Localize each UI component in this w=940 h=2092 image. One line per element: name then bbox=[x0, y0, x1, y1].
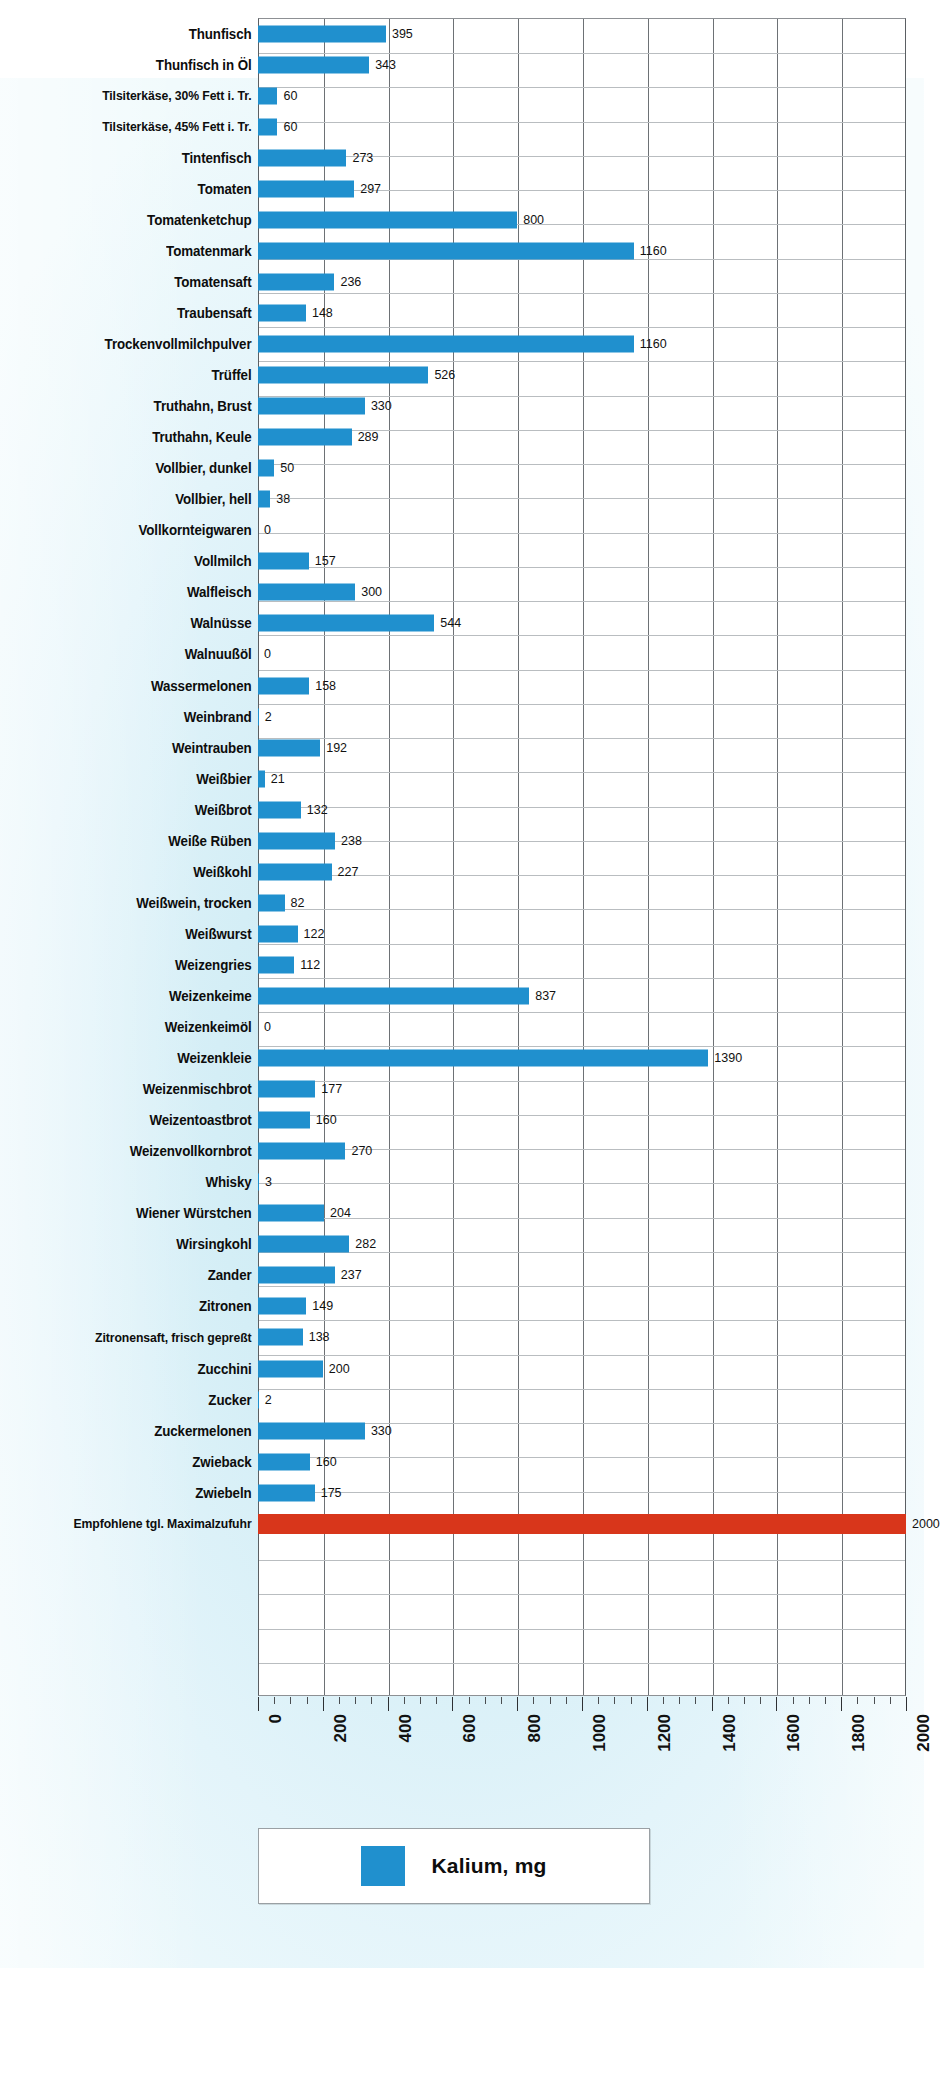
value-label: 158 bbox=[315, 679, 336, 693]
value-label: 160 bbox=[316, 1113, 337, 1127]
major-tick bbox=[323, 1697, 324, 1711]
value-label: 237 bbox=[341, 1268, 362, 1282]
minor-tick bbox=[695, 1697, 696, 1704]
value-label: 175 bbox=[321, 1486, 342, 1500]
x-axis-tick-labels: 0200400600800100012001400160018002000 bbox=[0, 1714, 924, 1804]
minor-tick bbox=[614, 1697, 615, 1704]
bar-row: Vollkornteigwaren0 bbox=[0, 515, 924, 546]
value-bar bbox=[258, 894, 285, 911]
value-label: 236 bbox=[340, 275, 361, 289]
category-label: Wassermelonen bbox=[21, 678, 258, 694]
category-label: Truthahn, Keule bbox=[21, 429, 258, 445]
category-label: Zuckermelonen bbox=[21, 1423, 258, 1439]
bar-track: 2000 bbox=[258, 1508, 924, 1539]
category-label: Vollmilch bbox=[21, 553, 258, 569]
value-label: 227 bbox=[338, 865, 359, 879]
bar-track: 204 bbox=[258, 1198, 924, 1229]
value-label: 200 bbox=[329, 1362, 350, 1376]
value-bar bbox=[258, 1267, 335, 1284]
bar-track: 270 bbox=[258, 1136, 924, 1167]
category-label: Weißbrot bbox=[21, 802, 258, 818]
value-bar bbox=[258, 25, 386, 42]
category-label: Tomatenketchup bbox=[21, 212, 258, 228]
minor-tick bbox=[809, 1697, 810, 1704]
minor-tick bbox=[469, 1697, 470, 1704]
x-axis-ticks bbox=[258, 1697, 906, 1713]
bar-track: 1160 bbox=[258, 235, 924, 266]
bar-track: 289 bbox=[258, 422, 924, 453]
legend-label-kalium: Kalium, mg bbox=[431, 1854, 546, 1878]
bar-row: Weißbrot132 bbox=[0, 794, 924, 825]
category-label: Truthahn, Brust bbox=[21, 398, 258, 414]
category-label: Tilsiterkäse, 45% Fett i. Tr. bbox=[21, 119, 258, 134]
bar-row: Zucchini200 bbox=[0, 1353, 924, 1384]
bar-track: 138 bbox=[258, 1322, 924, 1353]
x-tick-label: 1200 bbox=[655, 1714, 675, 1752]
value-label: 0 bbox=[264, 647, 271, 661]
x-tick-label: 600 bbox=[460, 1714, 480, 1742]
bar-row: Tilsiterkäse, 45% Fett i. Tr.60 bbox=[0, 111, 924, 142]
value-label: 2 bbox=[265, 1393, 272, 1407]
category-label: Weißwurst bbox=[21, 926, 258, 942]
value-label: 1160 bbox=[640, 244, 667, 258]
bar-track: 158 bbox=[258, 670, 924, 701]
bar-track: 50 bbox=[258, 453, 924, 484]
value-bar bbox=[258, 1143, 345, 1160]
value-bar bbox=[258, 1422, 365, 1439]
value-label: 132 bbox=[307, 803, 328, 817]
bar-row: Zwieback160 bbox=[0, 1446, 924, 1477]
x-tick-label: 200 bbox=[331, 1714, 351, 1742]
minor-tick bbox=[371, 1697, 372, 1704]
value-label: 157 bbox=[315, 554, 336, 568]
category-label: Weißkohl bbox=[21, 864, 258, 880]
major-tick bbox=[388, 1697, 389, 1711]
value-bar bbox=[258, 87, 277, 104]
bar-track: 200 bbox=[258, 1353, 924, 1384]
bar-row: Trockenvollmilchpulver1160 bbox=[0, 328, 924, 359]
bar-row: Zitronen149 bbox=[0, 1291, 924, 1322]
minor-tick bbox=[728, 1697, 729, 1704]
category-label: Walnuußöl bbox=[21, 646, 258, 662]
value-bar bbox=[258, 863, 332, 880]
value-label: 204 bbox=[330, 1206, 351, 1220]
category-label: Zucker bbox=[21, 1392, 258, 1408]
category-label: Zitronen bbox=[21, 1298, 258, 1314]
value-bar bbox=[258, 770, 265, 787]
minor-tick bbox=[355, 1697, 356, 1704]
value-bar bbox=[258, 367, 428, 384]
category-label: Empfohlene tgl. Maximalzufuhr bbox=[21, 1516, 258, 1531]
category-label: Walfleisch bbox=[21, 584, 258, 600]
major-tick bbox=[841, 1697, 842, 1711]
value-label: 160 bbox=[316, 1455, 337, 1469]
bar-track: 238 bbox=[258, 825, 924, 856]
major-tick bbox=[452, 1697, 453, 1711]
value-label: 0 bbox=[264, 523, 271, 537]
category-label: Wiener Würstchen bbox=[21, 1205, 258, 1221]
minor-tick bbox=[404, 1697, 405, 1704]
minor-tick bbox=[533, 1697, 534, 1704]
category-label: Whisky bbox=[21, 1174, 258, 1190]
bar-track: 177 bbox=[258, 1074, 924, 1105]
minor-tick bbox=[760, 1697, 761, 1704]
category-label: Tintenfisch bbox=[21, 150, 258, 166]
value-label: 138 bbox=[309, 1330, 330, 1344]
value-label: 21 bbox=[271, 772, 285, 786]
bar-row: Wiener Würstchen204 bbox=[0, 1198, 924, 1229]
value-bar bbox=[258, 56, 369, 73]
value-label: 177 bbox=[321, 1082, 342, 1096]
x-tick-label: 1800 bbox=[849, 1714, 869, 1752]
kalium-bar-chart: Thunfisch395Thunfisch in Öl343Tilsiterkä… bbox=[0, 0, 924, 1890]
bar-row: Traubensaft148 bbox=[0, 297, 924, 328]
minor-tick bbox=[857, 1697, 858, 1704]
bar-track: 21 bbox=[258, 763, 924, 794]
category-label: Tomatensaft bbox=[21, 274, 258, 290]
bar-row: Trüffel526 bbox=[0, 360, 924, 391]
bar-row: Weizentoastbrot160 bbox=[0, 1105, 924, 1136]
bar-row: Walfleisch300 bbox=[0, 577, 924, 608]
bar-row: Zwiebeln175 bbox=[0, 1477, 924, 1508]
minor-tick bbox=[566, 1697, 567, 1704]
x-tick-label: 1400 bbox=[720, 1714, 740, 1752]
bar-track: 38 bbox=[258, 484, 924, 515]
major-tick bbox=[258, 1697, 259, 1711]
category-label: Tomatenmark bbox=[21, 243, 258, 259]
